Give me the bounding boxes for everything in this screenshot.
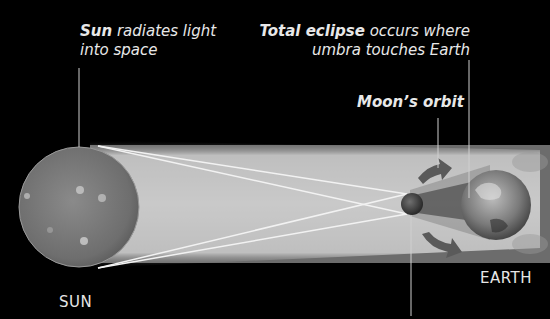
sun-globe — [19, 147, 139, 267]
sun-callout: Sun radiates light into space — [80, 22, 216, 60]
sun-callout-text: radiates light — [112, 22, 216, 40]
earth-label: EARTH — [480, 269, 532, 287]
sun-callout-bold: Sun — [80, 22, 112, 40]
sun-callout-line2: into space — [80, 41, 216, 60]
moon-orbit-label: Moon’s orbit — [357, 93, 464, 112]
eclipse-callout-text: occurs where — [365, 22, 470, 40]
eclipse-callout: Total eclipse occurs where umbra touches… — [259, 22, 470, 60]
moon-globe — [401, 193, 423, 215]
eclipse-callout-bold: Total eclipse — [259, 22, 364, 40]
eclipse-callout-line2: umbra touches Earth — [259, 41, 470, 60]
sun-label: SUN — [59, 293, 92, 311]
